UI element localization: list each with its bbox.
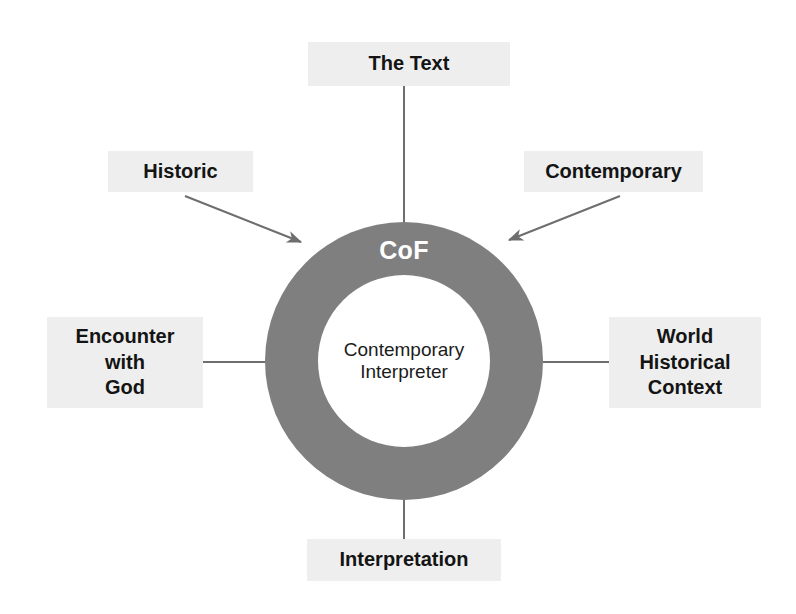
node-encounter-with-god-line3: God xyxy=(76,375,175,401)
node-contemporary-label: Contemporary xyxy=(545,159,682,185)
ring-inner-label-line2: Interpreter xyxy=(360,361,448,382)
node-world-historical-context-label: World Historical Context xyxy=(639,324,730,401)
node-encounter-with-god: Encounter with God xyxy=(47,317,203,408)
cof-ring: CoF Contemporary Interpreter xyxy=(265,222,543,500)
node-world-historical-context-line1: World xyxy=(639,324,730,350)
node-world-historical-context-line3: Context xyxy=(639,375,730,401)
node-historic-label: Historic xyxy=(143,159,217,185)
ring-inner-label-line1: Contemporary xyxy=(344,339,464,360)
node-the-text-label: The Text xyxy=(369,51,450,77)
ring-inner-circle: Contemporary Interpreter xyxy=(318,275,490,447)
connector-contemporary-arrow xyxy=(509,196,620,240)
diagram-canvas: CoF Contemporary Interpreter The Text Hi… xyxy=(0,0,796,614)
node-world-historical-context: World Historical Context xyxy=(609,317,761,408)
ring-label-cof: CoF xyxy=(265,236,543,265)
node-interpretation-label: Interpretation xyxy=(340,547,469,573)
ring-inner-label: Contemporary Interpreter xyxy=(318,339,490,384)
node-world-historical-context-line2: Historical xyxy=(639,350,730,376)
node-contemporary: Contemporary xyxy=(524,151,703,192)
node-encounter-with-god-line2: with xyxy=(76,350,175,376)
node-encounter-with-god-line1: Encounter xyxy=(76,324,175,350)
node-historic: Historic xyxy=(108,151,253,192)
node-encounter-with-god-label: Encounter with God xyxy=(76,324,175,401)
node-the-text: The Text xyxy=(308,42,510,86)
node-interpretation: Interpretation xyxy=(307,539,501,581)
